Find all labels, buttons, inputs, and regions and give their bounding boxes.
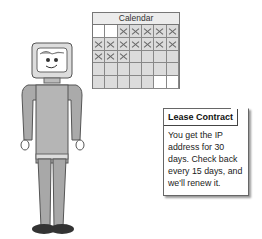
calendar-day-crossed xyxy=(105,38,117,51)
calendar-day xyxy=(167,76,179,89)
calendar-day xyxy=(130,51,142,64)
calendar-day xyxy=(105,25,117,38)
calendar-day xyxy=(93,25,105,38)
calendar-day-crossed xyxy=(93,38,105,51)
calendar-day-crossed xyxy=(142,25,154,38)
calendar-day-crossed xyxy=(130,25,142,38)
card-title: Lease Contract xyxy=(164,109,238,126)
computer-head-character xyxy=(18,40,98,235)
calendar-day-crossed xyxy=(105,51,117,64)
calendar: Calendar xyxy=(92,12,180,89)
calendar-day xyxy=(130,76,142,89)
calendar-day xyxy=(130,63,142,76)
calendar-day xyxy=(167,51,179,64)
calendar-day-crossed xyxy=(142,38,154,51)
calendar-day-crossed xyxy=(118,51,130,64)
calendar-day xyxy=(142,76,154,89)
calendar-day xyxy=(93,63,105,76)
calendar-day xyxy=(93,76,105,89)
calendar-day-crossed xyxy=(154,25,166,38)
card-body: You get the IP address for 30 days. Chec… xyxy=(168,129,245,189)
calendar-day xyxy=(118,76,130,89)
calendar-day-crossed xyxy=(130,38,142,51)
calendar-day xyxy=(154,51,166,64)
calendar-day-crossed xyxy=(154,38,166,51)
lease-contract-card: Lease Contract You get the IP address fo… xyxy=(163,108,249,196)
calendar-day xyxy=(118,63,130,76)
calendar-day-crossed xyxy=(93,51,105,64)
calendar-title: Calendar xyxy=(93,13,179,25)
calendar-day xyxy=(167,63,179,76)
calendar-day xyxy=(154,63,166,76)
calendar-day xyxy=(105,63,117,76)
calendar-day-crossed xyxy=(167,38,179,51)
calendar-day xyxy=(142,63,154,76)
calendar-grid xyxy=(93,25,179,89)
calendar-day xyxy=(105,76,117,89)
calendar-day xyxy=(142,51,154,64)
calendar-day-crossed xyxy=(118,25,130,38)
calendar-day xyxy=(154,76,166,89)
calendar-day-crossed xyxy=(118,38,130,51)
calendar-day-crossed xyxy=(167,25,179,38)
